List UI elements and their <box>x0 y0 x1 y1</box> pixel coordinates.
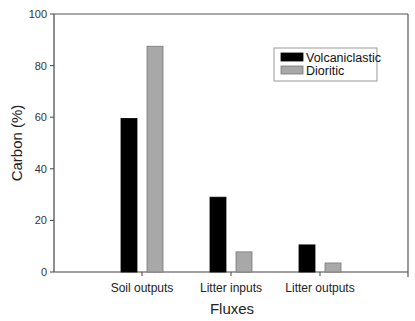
y-tick-label: 20 <box>35 214 47 226</box>
x-category-label: Litter outputs <box>285 281 354 295</box>
bar-volcaniclastic-litter-inputs <box>210 197 226 272</box>
y-axis: 020406080100 <box>29 8 54 278</box>
x-category-label: Litter inputs <box>200 281 262 295</box>
y-tick-label: 40 <box>35 163 47 175</box>
x-category-label: Soil outputs <box>111 281 174 295</box>
bar-dioritic-litter-inputs <box>236 252 252 272</box>
bar-volcaniclastic-soil-outputs <box>121 118 137 272</box>
y-axis-title: Carbon (%) <box>8 105 25 182</box>
bar-chart: 020406080100 Soil outputsLitter inputsLi… <box>0 0 415 321</box>
y-tick-label: 100 <box>29 8 47 20</box>
bar-dioritic-litter-outputs <box>325 263 341 272</box>
y-tick-label: 60 <box>35 111 47 123</box>
legend-label: Volcaniclastic <box>306 51 381 65</box>
x-axis-title: Fluxes <box>210 300 254 317</box>
legend-label: Dioritic <box>306 64 344 78</box>
bar-volcaniclastic-litter-outputs <box>299 245 315 272</box>
y-tick-label: 80 <box>35 60 47 72</box>
legend-swatch <box>281 53 303 61</box>
y-tick-label: 0 <box>41 266 47 278</box>
bar-dioritic-soil-outputs <box>147 46 163 272</box>
x-axis: Soil outputsLitter inputsLitter outputs <box>54 272 408 295</box>
legend-swatch <box>281 66 303 74</box>
legend: VolcaniclasticDioritic <box>274 48 381 81</box>
